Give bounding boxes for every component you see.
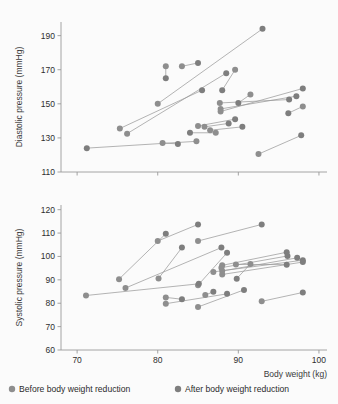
y-tick-label-systolic-70: 70 <box>46 322 56 332</box>
y-tick-label-diastolic-130: 130 <box>41 133 55 143</box>
data-point-after <box>234 276 240 282</box>
y-tick-label-diastolic-190: 190 <box>41 31 55 41</box>
data-point-after <box>195 221 201 227</box>
x-axis-title-systolic: Body weight (kg) <box>264 369 327 379</box>
data-point-before <box>218 108 224 114</box>
data-point-before <box>300 103 306 109</box>
data-point-after <box>226 120 232 126</box>
data-point-before <box>155 238 161 244</box>
data-point-before <box>195 238 201 244</box>
y-tick-label-systolic-90: 90 <box>46 275 56 285</box>
data-point-after <box>163 231 169 237</box>
data-point-after <box>223 70 229 76</box>
y-tick-label-systolic-80: 80 <box>46 298 56 308</box>
y-tick-label-systolic-100: 100 <box>41 251 55 261</box>
y-tick-label-diastolic-170: 170 <box>41 65 55 75</box>
data-point-after <box>179 245 185 251</box>
data-point-after <box>196 281 202 287</box>
x-tick-label-systolic-100: 100 <box>312 355 326 365</box>
y-axis-title-systolic: Systolic pressure (mmHg) <box>14 228 24 326</box>
data-point-after <box>285 253 291 259</box>
data-point-before <box>160 140 166 146</box>
legend-marker-after <box>175 386 181 392</box>
data-point-before <box>163 294 169 300</box>
legend-label-after: After body weight reduction <box>185 384 289 394</box>
data-point-after <box>187 130 193 136</box>
data-point-before <box>217 100 223 106</box>
data-point-after <box>175 141 181 147</box>
y-tick-label-systolic-110: 110 <box>41 228 55 238</box>
data-point-after <box>235 100 241 106</box>
data-point-after <box>195 60 201 66</box>
y-axis-title-diastolic: Diastolic pressure (mmHg) <box>14 47 24 148</box>
data-point-after <box>218 245 224 251</box>
data-point-before <box>179 63 185 69</box>
data-point-after <box>84 145 90 151</box>
legend-label-before: Before body weight reduction <box>19 384 131 394</box>
data-point-after <box>232 116 238 122</box>
data-point-before <box>210 269 216 275</box>
data-point-after <box>298 132 304 138</box>
data-point-after <box>259 221 265 227</box>
data-point-before <box>124 131 130 137</box>
data-point-before <box>219 271 225 277</box>
paired-scatter-figure: 110130150170190Diastolic pressure (mmHg)… <box>0 0 338 404</box>
data-point-before <box>202 292 208 298</box>
legend-marker-before <box>9 386 15 392</box>
x-tick-label-systolic-70: 70 <box>72 355 82 365</box>
data-point-after <box>300 259 306 265</box>
data-point-after <box>199 87 205 93</box>
data-point-after <box>300 289 306 295</box>
data-point-after <box>284 262 290 268</box>
data-point-after <box>210 289 216 295</box>
data-point-after <box>179 296 185 302</box>
plot-area-systolic <box>61 205 327 350</box>
data-point-before <box>163 63 169 69</box>
data-point-after <box>163 75 169 81</box>
x-tick-label-systolic-90: 90 <box>234 355 244 365</box>
data-point-before <box>122 285 128 291</box>
plot-area-diastolic <box>61 22 327 172</box>
data-point-before <box>233 261 239 267</box>
data-point-before <box>201 124 207 130</box>
data-point-after <box>285 110 291 116</box>
data-point-after <box>300 85 306 91</box>
data-point-after <box>294 255 300 261</box>
data-point-before <box>117 126 123 132</box>
data-point-before <box>255 151 261 157</box>
data-point-before <box>155 101 161 107</box>
data-point-after <box>260 26 266 32</box>
data-point-after <box>224 291 230 297</box>
data-point-before <box>213 130 219 136</box>
data-point-before <box>195 304 201 310</box>
data-point-after <box>286 97 292 103</box>
data-point-before <box>116 276 122 282</box>
data-point-after <box>224 250 230 256</box>
data-point-after <box>293 93 299 99</box>
data-point-before <box>247 91 253 97</box>
y-tick-label-diastolic-110: 110 <box>41 167 55 177</box>
data-point-after <box>219 87 225 93</box>
data-point-before <box>207 127 213 133</box>
data-point-before <box>163 301 169 307</box>
data-point-after <box>241 287 247 293</box>
data-point-before <box>193 138 199 144</box>
data-point-after <box>239 124 245 130</box>
y-tick-label-systolic-60: 60 <box>46 345 56 355</box>
data-point-before <box>195 123 201 129</box>
data-point-before <box>83 293 89 299</box>
x-tick-label-systolic-80: 80 <box>153 355 163 365</box>
data-point-before <box>156 275 162 281</box>
y-tick-label-diastolic-150: 150 <box>41 99 55 109</box>
panel-diastolic: 110130150170190Diastolic pressure (mmHg) <box>14 22 327 177</box>
y-tick-label-systolic-120: 120 <box>41 205 55 215</box>
data-point-before <box>259 298 265 304</box>
data-point-before <box>247 261 253 267</box>
data-point-before <box>232 67 238 73</box>
